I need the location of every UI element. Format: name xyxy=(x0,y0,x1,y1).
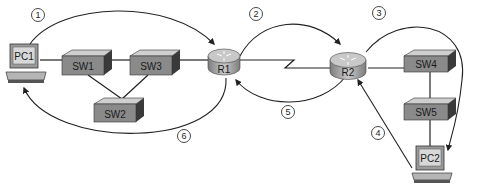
sw4-switch-icon: SW4 xyxy=(404,50,456,72)
sw2-switch-icon: SW2 xyxy=(94,98,144,122)
sw3-switch-icon: SW3 xyxy=(130,50,180,75)
link-r1-r2-serial xyxy=(238,60,333,68)
svg-text:5: 5 xyxy=(285,107,290,117)
sw5-switch-icon: SW5 xyxy=(404,98,456,120)
step-label-4: 4 xyxy=(372,127,385,140)
sw1-switch-icon: SW1 xyxy=(62,50,112,75)
step-label-1: 1 xyxy=(32,9,45,22)
arrow-step-1 xyxy=(30,11,214,44)
r2-label: R2 xyxy=(342,67,355,78)
pc2-label: PC2 xyxy=(420,153,440,164)
sw1-label: SW1 xyxy=(72,61,94,72)
network-diagram: 1 2 3 4 5 6 PC1 S xyxy=(0,0,478,185)
arrow-step-4 xyxy=(358,80,412,168)
r1-label: R1 xyxy=(218,64,231,75)
pc1-computer-icon: PC1 xyxy=(6,44,46,83)
arrow-step-5 xyxy=(236,76,346,102)
link-sw3-sw2 xyxy=(122,75,148,99)
pc2-computer-icon: PC2 xyxy=(412,146,452,183)
step-label-5: 5 xyxy=(282,106,295,119)
svg-text:1: 1 xyxy=(35,10,40,20)
svg-text:6: 6 xyxy=(181,131,186,141)
sw4-label: SW4 xyxy=(415,59,437,70)
sw2-label: SW2 xyxy=(104,109,126,120)
sw5-label: SW5 xyxy=(415,107,437,118)
step-label-6: 6 xyxy=(178,130,191,143)
step-label-2: 2 xyxy=(250,8,263,21)
step-label-3: 3 xyxy=(373,7,386,20)
r2-router-icon: R2 xyxy=(330,53,366,80)
svg-text:4: 4 xyxy=(375,128,380,138)
sw3-label: SW3 xyxy=(140,61,162,72)
svg-text:2: 2 xyxy=(253,9,258,19)
arrow-step-2 xyxy=(240,24,340,56)
flow-arrows xyxy=(24,11,463,168)
r1-router-icon: R1 xyxy=(208,49,240,75)
pc1-label: PC1 xyxy=(14,51,34,62)
svg-text:3: 3 xyxy=(376,8,381,18)
link-sw1-sw2 xyxy=(88,75,122,99)
